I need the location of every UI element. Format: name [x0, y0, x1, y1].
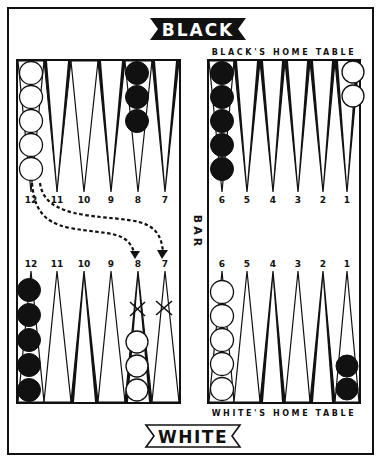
svg-text:4: 4 — [270, 259, 276, 269]
svg-text:3: 3 — [295, 259, 301, 269]
svg-text:3: 3 — [295, 195, 301, 205]
svg-text:1: 1 — [344, 259, 350, 269]
backgammon-board: BLACK BLACK'S HOME TABLE — [0, 0, 380, 466]
svg-text:6: 6 — [219, 259, 225, 269]
black-banner: BLACK — [150, 18, 246, 40]
checkers-top-left-12-white — [20, 62, 43, 181]
svg-text:10: 10 — [78, 195, 91, 205]
checkers-bottom-left-12-black — [18, 279, 41, 402]
svg-text:1: 1 — [344, 195, 350, 205]
svg-text:10: 10 — [78, 259, 91, 269]
black-title: BLACK — [162, 20, 235, 40]
white-title: WHITE — [158, 427, 228, 447]
checkers-top-right-6-black — [211, 62, 234, 181]
checkers-top-left-8-black — [126, 62, 149, 133]
svg-text:7: 7 — [162, 195, 168, 205]
svg-text:8: 8 — [135, 259, 141, 269]
black-home-label: BLACK'S HOME TABLE — [212, 48, 357, 57]
svg-text:7: 7 — [162, 259, 168, 269]
svg-text:9: 9 — [108, 195, 114, 205]
svg-text:5: 5 — [244, 195, 250, 205]
svg-text:5: 5 — [244, 259, 250, 269]
svg-text:9: 9 — [108, 259, 114, 269]
checkers-bottom-left-8-white — [126, 331, 148, 401]
bar-label: BAR — [191, 215, 204, 249]
svg-text:BAR: BAR — [191, 215, 204, 249]
svg-text:2: 2 — [320, 195, 326, 205]
white-banner: WHITE — [146, 425, 240, 447]
svg-text:2: 2 — [320, 259, 326, 269]
svg-text:8: 8 — [135, 195, 141, 205]
checkers-bottom-right-6-white — [211, 281, 234, 401]
right-table — [208, 60, 360, 403]
svg-text:4: 4 — [270, 195, 276, 205]
white-home-label: WHITE'S HOME TABLE — [212, 409, 357, 418]
svg-text:6: 6 — [219, 195, 225, 205]
svg-text:12: 12 — [25, 259, 38, 269]
svg-text:11: 11 — [51, 259, 64, 269]
